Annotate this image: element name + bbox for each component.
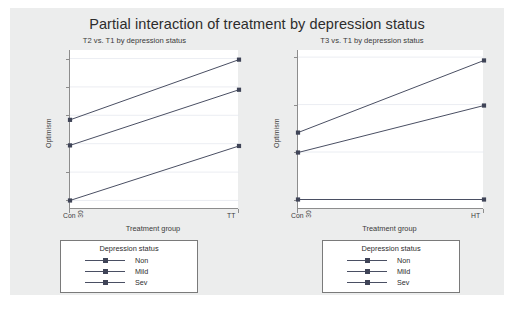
panel-left-xtick-tt: TT: [227, 212, 235, 219]
legend-left-label-sev: Sev: [135, 278, 147, 287]
y-tick-label: 30: [77, 207, 84, 221]
legend-left-label-non: Non: [135, 256, 148, 265]
chart-title: Partial interaction of treatment by depr…: [0, 16, 514, 32]
legend-right-item-mild: Mild: [329, 266, 453, 277]
x-tick-mark: [238, 209, 239, 213]
panel-right-xtick-con: Con: [291, 212, 303, 219]
legend-line-marker-icon: [347, 278, 387, 288]
legend-left-item-non: Non: [67, 255, 191, 266]
panel-left-y-axis-title: Optimism: [45, 118, 52, 148]
panel-left-x-axis-title: Treatment group: [69, 224, 237, 233]
x-tick-mark: [483, 209, 484, 213]
panel-right: T3 vs. T1 by depression status Optimism …: [252, 36, 492, 236]
legend-right-item-non: Non: [329, 255, 453, 266]
panel-left-xtick-con: Con: [63, 212, 75, 219]
chart-screenshot: Partial interaction of treatment by depr…: [0, 0, 514, 319]
legend-left: Depression status Non Mild Sev: [60, 240, 198, 293]
legend-right-label-mild: Mild: [397, 267, 410, 276]
legend-right: Depression status Non Mild Sev: [322, 240, 460, 293]
panel-left-lines: [70, 50, 238, 208]
legend-line-marker-icon: [85, 278, 125, 288]
panel-right-y-axis-title: Optimism: [273, 118, 280, 148]
legend-left-title: Depression status: [67, 244, 191, 253]
legend-line-marker-icon: [85, 256, 125, 266]
legend-left-item-mild: Mild: [67, 266, 191, 277]
panel-left-plot-area: [69, 50, 238, 209]
legend-left-label-mild: Mild: [135, 267, 148, 276]
panel-right-lines: [298, 50, 483, 208]
panel-left-subtitle: T2 vs. T1 by depression status: [22, 36, 247, 45]
legend-line-marker-icon: [85, 267, 125, 277]
legend-right-item-sev: Sev: [329, 277, 453, 288]
legend-line-marker-icon: [347, 267, 387, 277]
legend-line-marker-icon: [347, 256, 387, 266]
panel-right-subtitle: T3 vs. T1 by depression status: [252, 36, 492, 45]
legend-right-label-non: Non: [397, 256, 410, 265]
legend-right-title: Depression status: [329, 244, 453, 253]
legend-left-item-sev: Sev: [67, 277, 191, 288]
panel-left: T2 vs. T1 by depression status Optimism …: [22, 36, 247, 236]
legend-right-label-sev: Sev: [397, 278, 409, 287]
panel-right-x-axis-title: Treatment group: [297, 224, 482, 233]
panel-right-xtick-ht: HT: [471, 212, 480, 219]
panel-right-plot-area: [297, 50, 483, 209]
